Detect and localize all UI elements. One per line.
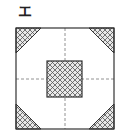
- corner-triangle-bottom-left: [16, 104, 41, 129]
- pattern-diagram: [0, 0, 126, 137]
- center-square: [47, 61, 82, 97]
- corner-triangle-top-right: [89, 28, 114, 53]
- corner-triangle-bottom-right: [89, 104, 114, 129]
- corner-triangle-top-left: [16, 28, 41, 53]
